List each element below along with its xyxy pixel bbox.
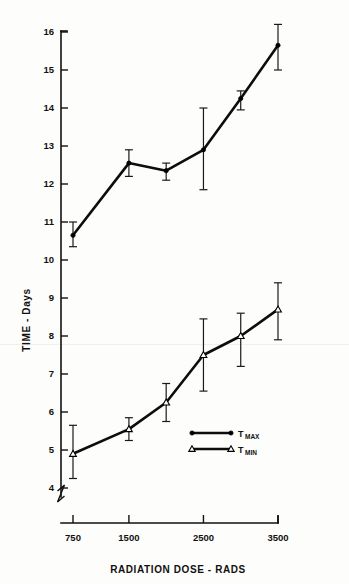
y-tick-label: 11 xyxy=(44,216,55,227)
data-point-marker xyxy=(127,161,131,165)
legend-marker xyxy=(190,431,194,435)
x-tick-label: 750 xyxy=(65,532,81,543)
y-tick-label: 15 xyxy=(43,64,54,75)
y-tick-label: 14 xyxy=(43,102,54,113)
x-tick-label: 3500 xyxy=(267,532,288,543)
legend-label-subscript: MIN xyxy=(245,449,257,456)
legend-label-base: T xyxy=(238,445,244,455)
legend-marker xyxy=(229,431,233,435)
data-point-marker xyxy=(164,169,168,173)
data-point-marker xyxy=(71,233,75,237)
data-point-marker xyxy=(276,43,280,47)
y-tick-label: 8 xyxy=(49,330,54,341)
y-axis-title: TIME - Days xyxy=(21,288,32,351)
y-tick-label: 10 xyxy=(43,254,54,265)
y-tick-label: 7 xyxy=(49,368,54,379)
data-point-marker xyxy=(201,148,205,152)
y-tick-label: 6 xyxy=(49,406,54,417)
y-tick-label: 13 xyxy=(43,140,54,151)
chart-figure: 45678910111213141516 750150025003500 TIM… xyxy=(0,0,349,584)
legend-label-subscript: MAX xyxy=(245,433,260,440)
x-tick-label: 2500 xyxy=(193,532,214,543)
y-tick-label: 5 xyxy=(49,444,55,455)
chart-canvas: 45678910111213141516 750150025003500 TIM… xyxy=(0,0,349,584)
x-axis-title: RADIATION DOSE - RADS xyxy=(110,564,246,575)
x-tick-label: 1500 xyxy=(118,532,139,543)
legend-label-base: T xyxy=(238,429,244,439)
y-tick-label: 9 xyxy=(49,292,54,303)
y-tick-label: 16 xyxy=(43,26,54,37)
y-tick-label: 4 xyxy=(49,482,55,493)
data-point-marker xyxy=(239,96,243,100)
y-tick-label: 12 xyxy=(43,178,54,189)
